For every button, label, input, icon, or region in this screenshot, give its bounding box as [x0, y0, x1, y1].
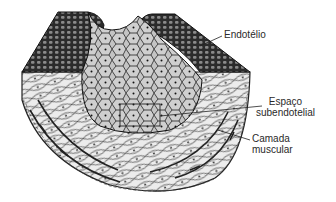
label-endotelio-text: Endotélio: [224, 29, 266, 40]
label-camada-line2: muscular: [252, 144, 293, 155]
label-espaco-line1: Espaço: [256, 96, 315, 107]
label-camada-muscular: Camada muscular: [252, 133, 293, 155]
label-espaco-line2: subendotelial: [256, 107, 315, 118]
label-espaco-subendotelial: Espaço subendotelial: [256, 96, 315, 118]
label-endotelio: Endotélio: [224, 29, 266, 40]
label-camada-line1: Camada: [252, 133, 293, 144]
